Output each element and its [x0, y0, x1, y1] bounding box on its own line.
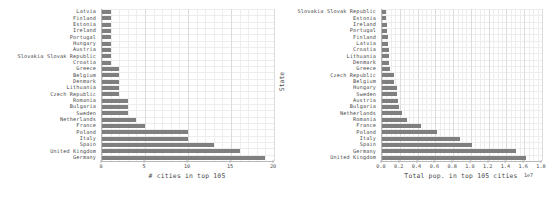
bar	[102, 73, 119, 77]
bar	[102, 16, 111, 20]
bar	[102, 54, 111, 58]
x-tick-label: 10	[184, 163, 190, 169]
bar	[382, 35, 388, 39]
plot-area-right	[381, 9, 542, 162]
x-tick-mark	[144, 160, 145, 163]
bar	[382, 92, 397, 96]
bar	[102, 137, 188, 141]
bar-row	[102, 155, 274, 161]
x-tick-mark	[505, 160, 506, 163]
x-tick-mark	[101, 160, 102, 163]
bar	[382, 61, 389, 65]
y-tick-labels-left: LatviaFinlandEstoniaIrelandPortugalHunga…	[0, 9, 99, 161]
bar	[102, 42, 111, 46]
bar	[102, 111, 128, 115]
bar	[102, 29, 111, 33]
x-tick-mark	[187, 160, 188, 163]
bar	[382, 118, 407, 122]
bar	[102, 143, 214, 147]
x-tick-mark	[452, 160, 453, 163]
bar	[382, 48, 389, 52]
x-tick-label: 1.4	[501, 163, 510, 169]
bar	[382, 130, 437, 134]
bar	[382, 73, 394, 77]
bar	[102, 61, 111, 65]
x-tick-label: 0	[99, 163, 102, 169]
x-tick-mark	[230, 160, 231, 163]
x-tick-label: 1.2	[483, 163, 492, 169]
x-tick-label: 1.6	[519, 163, 528, 169]
x-tick-label: 0.0	[376, 163, 385, 169]
x-tick-label: 0.2	[394, 163, 403, 169]
x-axis-offset-text-right: 1e7	[524, 172, 533, 178]
bar	[382, 137, 460, 141]
bar	[102, 67, 119, 71]
bar	[102, 23, 111, 27]
bar	[382, 99, 398, 103]
plot-area-left	[101, 9, 274, 162]
bar	[102, 99, 128, 103]
x-tick-mark	[381, 160, 382, 163]
bar	[102, 118, 136, 122]
x-axis-title-left: # cities in top 105	[101, 172, 273, 180]
x-tick-mark	[273, 160, 274, 163]
x-tick-label: 1.8	[536, 163, 545, 169]
x-tick-mark	[541, 160, 542, 163]
bar	[382, 42, 388, 46]
bar	[382, 29, 387, 33]
chart-panel-cities-population: State Slovakia Slovak RepublicEstoniaIre…	[276, 0, 553, 200]
gridline-vertical-major	[542, 9, 543, 161]
x-tick-label: 0.8	[447, 163, 456, 169]
x-tick-mark	[416, 160, 417, 163]
y-tick-label: Germany	[73, 155, 96, 160]
bars-right	[382, 9, 542, 161]
x-tick-mark	[469, 160, 470, 163]
bar	[382, 149, 516, 153]
bar	[382, 86, 397, 90]
figure-two-bar-charts: LatviaFinlandEstoniaIrelandPortugalHunga…	[0, 0, 553, 200]
x-tick-label: 1.0	[465, 163, 474, 169]
chart-panel-cities-count: LatviaFinlandEstoniaIrelandPortugalHunga…	[0, 0, 276, 200]
bar	[102, 86, 119, 90]
bar	[102, 48, 111, 52]
x-tick-mark	[398, 160, 399, 163]
x-tick-mark	[434, 160, 435, 163]
bar	[102, 35, 111, 39]
bar	[382, 111, 402, 115]
bar-row	[382, 155, 542, 161]
gridline-vertical-major	[274, 9, 275, 161]
bar	[102, 10, 111, 14]
x-axis-title-right: Total pop. in top 105 cities	[381, 172, 541, 180]
x-tick-label: 0.6	[430, 163, 439, 169]
bar	[382, 80, 394, 84]
bar	[102, 130, 188, 134]
bar	[382, 105, 399, 109]
x-tick-mark	[487, 160, 488, 163]
bar	[382, 54, 389, 58]
bar	[102, 105, 128, 109]
bar	[382, 67, 390, 71]
bar	[382, 16, 386, 20]
bar	[382, 124, 421, 128]
bar	[382, 23, 387, 27]
y-tick-labels-right: Slovakia Slovak RepublicEstoniaIrelandPo…	[276, 9, 379, 161]
x-tick-mark	[523, 160, 524, 163]
y-tick-label: United Kingdom	[330, 155, 376, 160]
x-tick-label: 0.4	[412, 163, 421, 169]
bar	[102, 156, 265, 160]
bars-left	[102, 9, 274, 161]
bar	[102, 149, 240, 153]
bar	[102, 92, 119, 96]
bar	[102, 80, 119, 84]
bar	[382, 143, 472, 147]
bar	[382, 10, 386, 14]
bar	[102, 124, 145, 128]
x-tick-label: 5	[142, 163, 145, 169]
x-tick-label: 15	[227, 163, 233, 169]
